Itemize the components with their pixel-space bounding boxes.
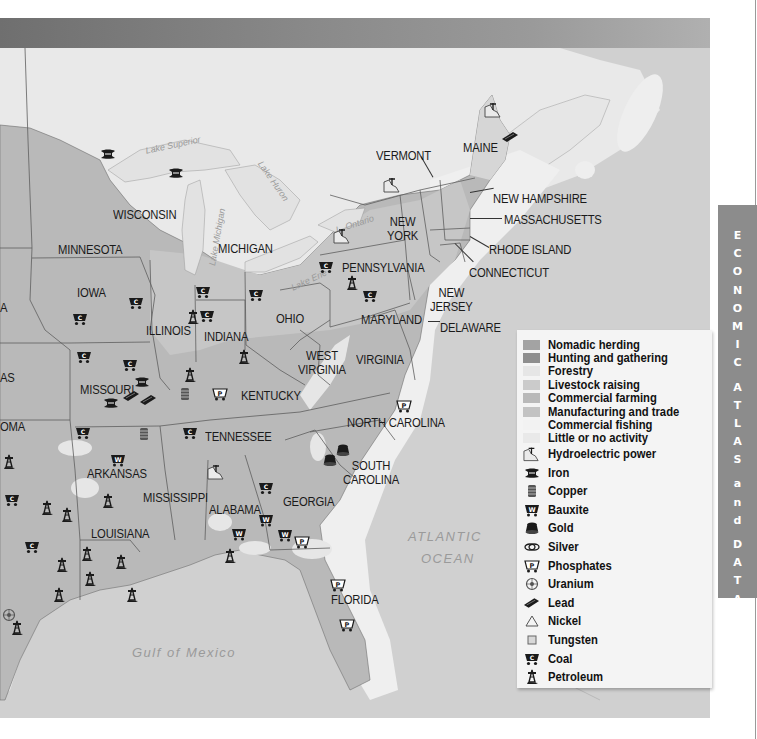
state-label-new-york: NEWYORK [387, 215, 418, 243]
legend-label: Nomadic herding [548, 338, 640, 352]
legend-item-nomadic-herding: Nomadic herding [523, 338, 650, 351]
legend-item-iron: Iron [523, 465, 572, 481]
legend-label: Manufacturing and trade [548, 405, 679, 419]
state-label-north-carolina: NORTH CAROLINA [347, 416, 445, 430]
petroleum-icon [101, 493, 117, 507]
state-label-maryland: MARYLAND [361, 313, 422, 327]
section-tab-letter: I [735, 336, 739, 354]
section-tab-letter: K [733, 663, 742, 681]
legend-item-coal: CCoal [523, 651, 575, 667]
coal-icon: C [128, 296, 144, 310]
water-label-gulf-of-mexico: Gulf of Mexico [132, 645, 236, 660]
svg-text:C: C [81, 428, 86, 435]
state-label-minnesota: MINNESOTA [58, 243, 122, 257]
state-label-west-virginia: WESTVIRGINIA [298, 349, 346, 377]
legend-swatch [523, 380, 540, 390]
svg-text:W: W [281, 531, 288, 539]
state-label-new-jersey: NEWJERSEY [430, 286, 473, 314]
petroleum-icon [40, 500, 56, 514]
state-label-vermont: VERMONT [376, 149, 431, 163]
tungsten-icon [523, 633, 540, 647]
section-tab-letter: n [734, 494, 742, 512]
phosphates-icon: P [330, 578, 346, 592]
gold-icon [523, 521, 540, 535]
svg-text:P: P [402, 402, 407, 410]
leader-delaware [428, 321, 440, 322]
state-label-florida: FLORIDA [331, 593, 379, 607]
svg-text:C: C [529, 654, 534, 661]
coal-icon: C [4, 493, 20, 507]
nickel-icon [523, 614, 540, 628]
phosphates-icon: P [396, 399, 412, 413]
petroleum-icon [55, 557, 71, 571]
legend-label: Iron [548, 466, 569, 480]
svg-text:C: C [205, 311, 210, 318]
section-tab-letter: O [733, 300, 742, 318]
hydro-icon [383, 177, 399, 191]
water-label-atlantic: ATLANTIC [408, 529, 482, 544]
petroleum-icon [83, 571, 99, 585]
state-label-louisiana: LOUISIANA [91, 527, 149, 541]
section-tab-letter: a [734, 475, 741, 493]
svg-text:C: C [324, 262, 329, 269]
state-label-illinois: ILLINOIS [146, 324, 191, 338]
iron-icon [100, 148, 116, 162]
section-tab-letter: T [734, 572, 742, 590]
bauxite-icon: W [110, 453, 126, 467]
legend-item-tungsten: Tungsten [523, 632, 603, 648]
section-tab-letter: O [733, 263, 742, 281]
lead-icon [139, 394, 155, 408]
phosphates-icon: P [212, 387, 228, 401]
coal-icon: C [258, 481, 274, 495]
legend-label: Nickel [548, 614, 581, 628]
copper-icon [523, 484, 540, 498]
state-label-partial: OMA [0, 420, 25, 434]
section-tab-letter: L [734, 415, 741, 433]
state-label-virginia: VIRGINIA [356, 353, 404, 367]
legend-item-copper: Copper [523, 483, 592, 499]
legend-swatch [523, 366, 540, 376]
hydro-icon [333, 228, 349, 242]
state-label-mississippi: MISSISSIPPI [143, 491, 208, 505]
state-label-massachusetts: MASSACHUSETTS [504, 213, 602, 227]
section-tab-letter: A [733, 627, 742, 645]
petroleum-icon [60, 507, 76, 521]
section-tab-letter: N [733, 282, 742, 300]
gold-icon [322, 453, 338, 467]
legend-label: Commercial farming [548, 391, 657, 405]
section-tab-letter: S [734, 451, 742, 469]
hydro-icon [523, 447, 540, 461]
state-label-wisconsin: WISCONSIN [113, 208, 176, 222]
leader-massachusetts [470, 218, 502, 219]
legend-item-silver: Silver [523, 539, 582, 555]
petroleum-icon [183, 367, 199, 381]
legend-label: Petroleum [548, 670, 603, 684]
state-label-south-carolina: SOUTHCAROLINA [343, 459, 399, 487]
coal-icon: C [122, 358, 138, 372]
section-tab-letter: A [733, 379, 742, 397]
svg-text:W: W [262, 516, 269, 524]
legend-label: Livestock raising [548, 378, 640, 392]
petroleum-icon [223, 548, 239, 562]
svg-text:C: C [10, 495, 15, 502]
petroleum-icon [80, 546, 96, 560]
state-label-tennessee: TENNESSEE [205, 430, 272, 444]
phosphates-icon: P [523, 559, 540, 573]
legend-label: Gold [548, 521, 574, 535]
legend-swatch [523, 353, 540, 363]
svg-text:P: P [300, 538, 305, 546]
section-tab-letter: M [732, 318, 743, 336]
coal-icon: C [523, 652, 540, 666]
legend-swatch [523, 340, 540, 350]
legend-label: Hunting and gathering [548, 351, 668, 365]
state-label-ohio: OHIO [276, 312, 304, 326]
iron-icon [103, 397, 119, 411]
coal-icon: C [318, 260, 334, 274]
section-tab-letter: B [733, 609, 741, 627]
legend-label: Uranium [548, 577, 594, 591]
bauxite-icon: W [523, 503, 540, 517]
svg-text:C: C [30, 542, 35, 549]
petroleum-icon [186, 309, 202, 323]
iron-icon [134, 376, 150, 390]
section-tab-letter: D [733, 536, 742, 554]
